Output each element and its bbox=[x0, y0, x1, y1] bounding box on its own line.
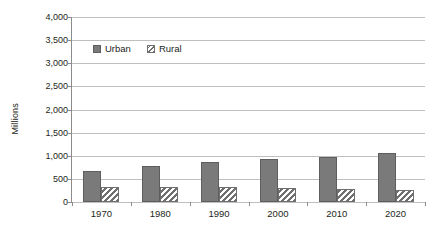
y-tick-label: 2,500 bbox=[22, 82, 68, 91]
bar-urban bbox=[378, 153, 396, 202]
y-tick-label: 1,000 bbox=[22, 151, 68, 160]
bar-group bbox=[307, 17, 366, 202]
bar-rural bbox=[278, 188, 296, 202]
y-axis-tick-labels: 05001,0001,5002,0002,5003,0003,5004,000 bbox=[20, 0, 68, 237]
bar-urban bbox=[260, 159, 278, 202]
x-tick-label: 2010 bbox=[326, 208, 347, 219]
y-tick-label: 0 bbox=[22, 198, 68, 207]
x-tick-mark bbox=[72, 202, 73, 206]
y-axis-title-label: Millions bbox=[10, 103, 20, 135]
x-tick-mark bbox=[425, 202, 426, 206]
legend-item-rural[interactable]: Rural bbox=[147, 43, 182, 54]
x-tick-label: 1970 bbox=[91, 208, 112, 219]
x-axis-tick-labels: 197019801990200020102020 bbox=[72, 205, 425, 229]
x-tick-mark bbox=[307, 202, 308, 206]
y-tick-label: 1,500 bbox=[22, 128, 68, 137]
x-tick-label: 2020 bbox=[385, 208, 406, 219]
bar-rural bbox=[219, 187, 237, 202]
y-tick-label: 3,000 bbox=[22, 59, 68, 68]
x-tick-mark bbox=[190, 202, 191, 206]
bar-urban bbox=[319, 157, 337, 202]
y-tick-label: 2,000 bbox=[22, 105, 68, 114]
bar-urban bbox=[83, 171, 101, 202]
bar-urban bbox=[201, 162, 219, 202]
bar-rural bbox=[337, 189, 355, 202]
legend-swatch-rural bbox=[147, 45, 155, 53]
x-tick-label: 1980 bbox=[150, 208, 171, 219]
bar-rural bbox=[160, 187, 178, 202]
bar-urban bbox=[142, 166, 160, 202]
legend-label-rural: Rural bbox=[159, 43, 182, 54]
bar-rural bbox=[101, 187, 119, 202]
legend-item-urban[interactable]: Urban bbox=[93, 43, 131, 54]
bar-group bbox=[366, 17, 425, 202]
x-tick-mark bbox=[131, 202, 132, 206]
y-tick-label: 3,500 bbox=[22, 36, 68, 45]
bar-group bbox=[190, 17, 249, 202]
bar-rural bbox=[396, 190, 414, 202]
legend-label-urban: Urban bbox=[105, 43, 131, 54]
chart-legend: UrbanRural bbox=[93, 43, 182, 54]
x-tick-label: 1990 bbox=[209, 208, 230, 219]
y-tick-label: 4,000 bbox=[22, 13, 68, 22]
x-tick-label: 2000 bbox=[267, 208, 288, 219]
x-tick-mark bbox=[366, 202, 367, 206]
x-tick-mark bbox=[249, 202, 250, 206]
bar-chart: Millions 05001,0001,5002,0002,5003,0003,… bbox=[0, 0, 443, 237]
y-tick-label: 500 bbox=[22, 174, 68, 183]
bar-group bbox=[249, 17, 308, 202]
legend-swatch-urban bbox=[93, 45, 101, 53]
